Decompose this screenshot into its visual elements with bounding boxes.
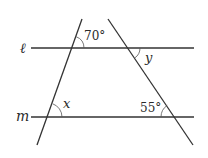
line-l-label: ℓ bbox=[20, 40, 26, 56]
line-m-label: m bbox=[16, 108, 29, 124]
angle-label-x: x bbox=[63, 96, 71, 111]
angle-arc-70 bbox=[76, 37, 84, 48]
left-transversal bbox=[37, 19, 82, 145]
right-transversal bbox=[108, 19, 193, 145]
angle-arc-y bbox=[135, 48, 140, 58]
parallel-lines-diagram: ℓ m 70° y x 55° bbox=[0, 0, 208, 158]
angle-arc-55 bbox=[161, 105, 167, 117]
angle-label-55: 55° bbox=[140, 101, 161, 115]
angle-label-y: y bbox=[144, 50, 153, 65]
angle-arc-x bbox=[53, 104, 62, 117]
angle-label-70: 70° bbox=[84, 29, 105, 43]
